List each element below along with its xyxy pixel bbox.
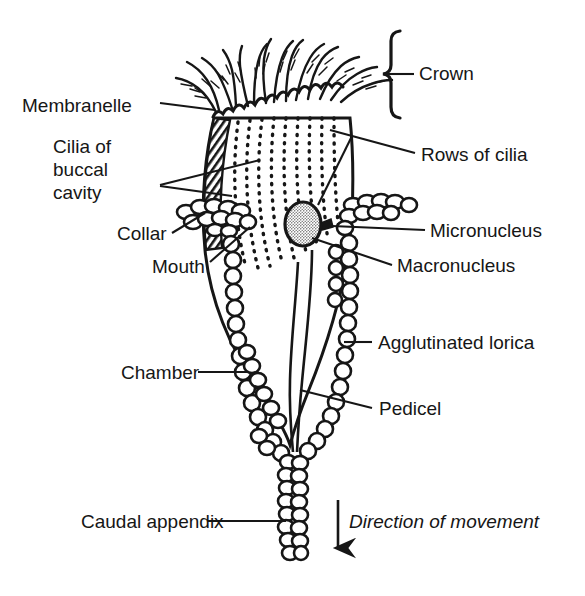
label-mouth: Mouth [152,255,205,278]
membranelle-tufts [176,39,392,112]
label-direction-of-movement: Direction of movement [349,510,539,533]
diagram-canvas [0,0,585,596]
label-caudal-appendix: Caudal appendix [81,510,224,533]
ciliate-diagram-figure: Membranelle Cilia of buccal cavity Crown… [0,0,585,596]
leader-membranelle [160,103,215,110]
label-collar: Collar [117,222,167,245]
caudal-appendix-shape [278,455,308,560]
label-pedicel: Pedicel [379,397,441,420]
label-cilia-of-buccal-cavity: Cilia of buccal cavity [53,135,111,204]
label-membranelle: Membranelle [22,94,132,117]
label-agglutinated-lorica: Agglutinated lorica [378,331,534,354]
label-crown: Crown [419,62,474,85]
label-rows-of-cilia: Rows of cilia [421,143,528,166]
label-macronucleus: Macronucleus [397,254,515,277]
label-chamber: Chamber [121,361,199,384]
crown-group [176,39,392,117]
label-micronucleus: Micronucleus [430,219,542,242]
